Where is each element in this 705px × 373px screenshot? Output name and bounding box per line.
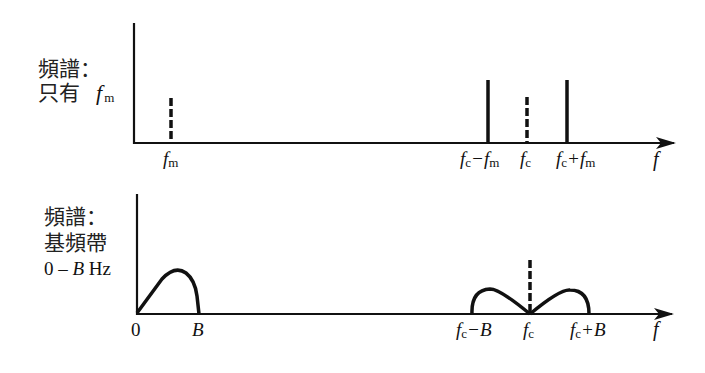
bottom-label-line2: 基頻帶 (44, 231, 107, 255)
top-x-axis-label: f (653, 148, 661, 171)
spectrum-diagram: 頻譜： 只有 fm fm fc−fm fc fc+fm f 頻譜： 基頻帶 0 … (0, 0, 705, 373)
bottom-x-axis-label: f (653, 318, 661, 341)
bottom-label-line1: 頻譜： (44, 205, 107, 229)
tick-fc-plus-B: fc+B (570, 319, 606, 341)
tick-fm: fm (163, 148, 178, 170)
tick-fc-minus-B: fc−B (456, 319, 492, 341)
tick-B: B (192, 319, 204, 340)
tick-fc-minus-fm: fc−fm (460, 148, 499, 170)
top-label-line2: 只有 (38, 81, 80, 105)
top-label-fm: fm (96, 80, 114, 105)
bottom-label-line3: 0 – B Hz (44, 258, 111, 279)
top-label-line1: 頻譜： (38, 57, 101, 81)
lower-sideband-lobe (472, 289, 530, 314)
tick-fc-plus-fm: fc+fm (556, 148, 595, 170)
tick-fc: fc (523, 319, 534, 341)
upper-sideband-lobe (530, 290, 589, 314)
bottom-panel: 頻譜： 基頻帶 0 – B Hz 0 B fc−B fc fc+B f (44, 194, 672, 341)
top-panel: 頻譜： 只有 fm fm fc−fm fc fc+fm f (38, 23, 674, 171)
tick-zero: 0 (131, 319, 141, 340)
tick-fc: fc (520, 148, 531, 170)
baseband-spectrum-curve (137, 270, 199, 314)
